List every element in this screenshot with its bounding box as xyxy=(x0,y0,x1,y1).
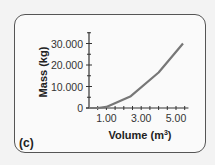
y-tick-label: 20.000 xyxy=(51,59,83,71)
tick-labels: 010.00020.00030.0001.003.005.00 xyxy=(51,38,187,125)
x-axis-label: Volume (m3) xyxy=(109,129,172,141)
y-tick-label: 10.000 xyxy=(51,81,83,93)
x-tick-label: 1.00 xyxy=(96,112,117,124)
axes xyxy=(86,32,188,110)
x-tick-label: 5.00 xyxy=(166,112,187,124)
y-tick-label: 0 xyxy=(77,102,83,114)
x-tick-label: 3.00 xyxy=(131,112,152,124)
panel-label: (c) xyxy=(19,136,34,150)
y-tick-label: 30.000 xyxy=(51,38,83,50)
mass-volume-line xyxy=(89,44,183,109)
y-axis-label: Mass (kg) xyxy=(37,47,49,98)
